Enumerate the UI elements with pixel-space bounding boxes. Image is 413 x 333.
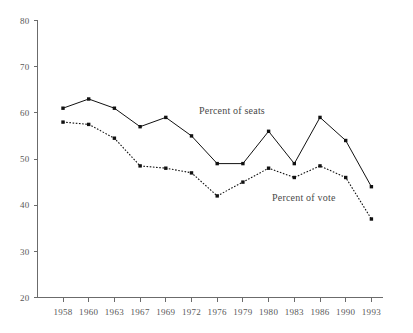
x-tick-label: 1960 bbox=[79, 307, 98, 317]
data-point-marker bbox=[113, 107, 116, 110]
data-point-marker bbox=[138, 125, 141, 128]
x-tick-label: 1983 bbox=[285, 307, 304, 317]
data-point-marker bbox=[241, 162, 244, 165]
series-markers-percent-of-vote bbox=[61, 120, 373, 220]
y-tick-label: 40 bbox=[20, 200, 30, 210]
data-point-marker bbox=[138, 164, 141, 167]
series-line-percent-of-vote bbox=[63, 122, 371, 219]
y-tick-label: 30 bbox=[20, 247, 30, 257]
y-tick-label: 80 bbox=[20, 16, 30, 26]
x-tick-label: 1990 bbox=[336, 307, 355, 317]
data-point-marker bbox=[344, 176, 347, 179]
y-tick-label: 60 bbox=[20, 108, 30, 118]
annotation-percent-of-vote: Percent of vote bbox=[272, 192, 336, 203]
data-point-marker bbox=[87, 97, 90, 100]
data-point-marker bbox=[216, 194, 219, 197]
y-tick-label: 70 bbox=[20, 62, 30, 72]
line-chart: 20304050607080 1958196019631967196919721… bbox=[0, 0, 413, 333]
data-point-marker bbox=[370, 217, 373, 220]
x-tick-label: 1967 bbox=[130, 307, 149, 317]
data-point-marker bbox=[190, 134, 193, 137]
x-tick-label: 1976 bbox=[208, 307, 227, 317]
data-point-marker bbox=[293, 176, 296, 179]
annotation-percent-of-seats: Percent of seats bbox=[199, 105, 265, 116]
x-tick-label: 1963 bbox=[105, 307, 124, 317]
x-tick-label: 1958 bbox=[53, 307, 72, 317]
data-point-marker bbox=[61, 107, 64, 110]
data-point-marker bbox=[267, 167, 270, 170]
x-tick-label: 1980 bbox=[259, 307, 278, 317]
x-tick-label: 1986 bbox=[310, 307, 329, 317]
x-tick-label: 1979 bbox=[233, 307, 252, 317]
x-tick-label: 1972 bbox=[182, 307, 201, 317]
data-point-marker bbox=[318, 116, 321, 119]
data-point-marker bbox=[190, 171, 193, 174]
data-point-marker bbox=[61, 120, 64, 123]
data-point-marker bbox=[267, 130, 270, 133]
data-point-marker bbox=[241, 180, 244, 183]
data-point-marker bbox=[87, 123, 90, 126]
x-axis-ticks: 1958196019631967196919721976197919801983… bbox=[53, 298, 381, 317]
x-tick-label: 1993 bbox=[362, 307, 381, 317]
chart-container: 20304050607080 1958196019631967196919721… bbox=[0, 0, 413, 333]
x-tick-label: 1969 bbox=[156, 307, 175, 317]
data-point-marker bbox=[164, 116, 167, 119]
data-point-marker bbox=[318, 164, 321, 167]
y-axis-ticks: 20304050607080 bbox=[20, 16, 38, 303]
data-point-marker bbox=[113, 137, 116, 140]
data-point-marker bbox=[293, 162, 296, 165]
y-tick-label: 20 bbox=[20, 293, 30, 303]
data-point-marker bbox=[370, 185, 373, 188]
data-point-marker bbox=[216, 162, 219, 165]
data-point-marker bbox=[344, 139, 347, 142]
y-tick-label: 50 bbox=[20, 154, 30, 164]
data-point-marker bbox=[164, 167, 167, 170]
